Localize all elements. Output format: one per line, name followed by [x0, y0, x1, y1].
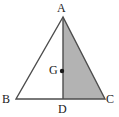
vertex-label-a: A	[57, 2, 66, 14]
centroid-point-g	[60, 69, 64, 73]
vertex-label-d: D	[58, 103, 67, 115]
vertex-label-b: B	[2, 93, 10, 105]
vertex-label-c: C	[106, 93, 114, 105]
vertex-label-g: G	[49, 64, 58, 76]
triangle-diagram-svg	[0, 0, 119, 117]
geometry-figure: A B C D G	[0, 0, 119, 117]
